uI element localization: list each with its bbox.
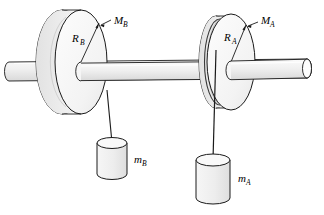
mass-a-top: [196, 154, 230, 166]
label-hanging-mass-a-sub: A: [245, 178, 251, 187]
disc-b-mass-leader: [100, 20, 111, 27]
label-mass-disc-b-sub: B: [123, 20, 128, 29]
hanging-mass-a: m A: [196, 154, 251, 204]
label-hanging-mass-b-main: m: [134, 153, 142, 165]
label-radius-a-main: R: [223, 31, 231, 43]
label-radius-b-main: R: [71, 32, 79, 44]
label-hanging-mass-b: m B: [134, 153, 147, 168]
disc-a-mass-leader: [247, 22, 258, 28]
label-mass-disc-b: M B: [113, 14, 128, 29]
figure-canvas: R B M B: [0, 0, 324, 215]
label-radius-a-sub: A: [231, 37, 237, 46]
label-mass-disc-a-sub: A: [269, 20, 275, 29]
cord-b: [107, 90, 112, 143]
label-mass-disc-a: M A: [260, 14, 275, 29]
shaft-through-disc-a: [226, 59, 312, 80]
label-hanging-mass-b-sub: B: [142, 159, 147, 168]
label-radius-b-sub: B: [80, 38, 85, 47]
label-hanging-mass-a: m A: [238, 172, 251, 187]
physics-figure-pulley-shaft: R B M B: [0, 0, 324, 215]
hanging-mass-b: m B: [97, 138, 147, 180]
cord-b-line: [107, 90, 112, 143]
mass-a-body: [196, 160, 230, 204]
mass-b-top: [97, 138, 127, 149]
label-hanging-mass-a-main: m: [238, 172, 246, 184]
shaft-through-disc-b: [76, 62, 200, 81]
shaft-right-end-cap: [303, 59, 312, 78]
